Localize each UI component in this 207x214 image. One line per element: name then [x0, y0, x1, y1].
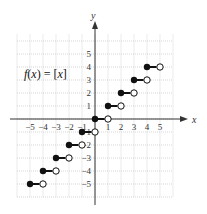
- x-tick-label: 3: [132, 122, 137, 132]
- step-segment: [53, 155, 72, 161]
- closed-dot-icon: [66, 142, 72, 148]
- open-dot-icon: [105, 116, 111, 122]
- closed-dot-icon: [118, 90, 124, 96]
- closed-dot-icon: [105, 103, 111, 109]
- closed-dot-icon: [131, 77, 137, 83]
- y-tick-label: 5: [87, 49, 92, 59]
- x-tick-label: −5: [25, 122, 35, 132]
- x-tick-label: 1: [106, 122, 111, 132]
- y-tick-label: 3: [87, 75, 92, 85]
- step-segment: [27, 181, 46, 187]
- y-axis-label: y: [90, 10, 96, 21]
- y-tick-label: 1: [87, 101, 92, 111]
- open-dot-icon: [118, 103, 124, 109]
- closed-dot-icon: [53, 155, 59, 161]
- open-dot-icon: [66, 155, 72, 161]
- y-tick-label: 2: [87, 88, 92, 98]
- closed-dot-icon: [92, 116, 98, 122]
- open-dot-icon: [53, 168, 59, 174]
- step-segment: [66, 142, 85, 148]
- y-tick-label: −3: [81, 153, 91, 163]
- step-segment: [105, 103, 124, 109]
- open-dot-icon: [40, 181, 46, 187]
- x-tick-label: −3: [51, 122, 61, 132]
- closed-dot-icon: [27, 181, 33, 187]
- open-dot-icon: [144, 77, 150, 83]
- step-function-chart: x y −5−4−3−2−11234554321−1−2−3−4−5 f(x) …: [0, 0, 207, 214]
- step-segment: [40, 168, 59, 174]
- y-tick-label: −4: [81, 166, 91, 176]
- y-tick-label: 4: [87, 62, 92, 72]
- y-tick-label: −5: [81, 179, 91, 189]
- x-tick-label: −4: [38, 122, 48, 132]
- closed-dot-icon: [40, 168, 46, 174]
- x-axis-arrow-icon: [180, 116, 188, 122]
- axes: x y: [10, 10, 197, 205]
- step-segment: [118, 90, 137, 96]
- open-dot-icon: [131, 90, 137, 96]
- step-segment: [131, 77, 150, 83]
- closed-dot-icon: [79, 129, 85, 135]
- function-annotation: f(x) = [x]: [24, 67, 67, 81]
- x-tick-label: −2: [64, 122, 74, 132]
- step-segment: [92, 116, 111, 122]
- y-axis-arrow-icon: [92, 21, 98, 29]
- open-dot-icon: [79, 142, 85, 148]
- open-dot-icon: [157, 64, 163, 70]
- x-axis-label: x: [191, 114, 197, 125]
- x-tick-label: 2: [119, 122, 124, 132]
- x-tick-label: 4: [145, 122, 150, 132]
- closed-dot-icon: [144, 64, 150, 70]
- x-tick-label: 5: [158, 122, 163, 132]
- open-dot-icon: [92, 129, 98, 135]
- step-segment: [144, 64, 163, 70]
